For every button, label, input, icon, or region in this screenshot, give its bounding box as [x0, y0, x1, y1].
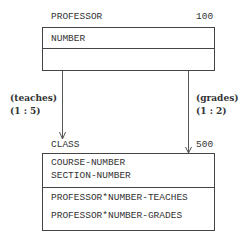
- teaches-cardinality: (1 : 5): [10, 105, 41, 118]
- class-entity-box: COURSE-NUMBER SECTION-NUMBER PROFESSOR*N…: [42, 153, 215, 231]
- class-field: PROFESSOR*NUMBER-TEACHES: [51, 192, 188, 203]
- class-divider: [43, 187, 214, 188]
- grades-label: (grades): [196, 92, 238, 105]
- grades-cardinality: (1 : 2): [196, 105, 227, 118]
- class-entity-count: 500: [196, 139, 213, 150]
- class-key-field: SECTION-NUMBER: [51, 170, 131, 181]
- class-field: PROFESSOR*NUMBER-GRADES: [51, 210, 182, 221]
- teaches-label: (teaches): [10, 92, 57, 105]
- class-entity-name: CLASS: [51, 139, 80, 150]
- class-key-field: COURSE-NUMBER: [51, 157, 125, 168]
